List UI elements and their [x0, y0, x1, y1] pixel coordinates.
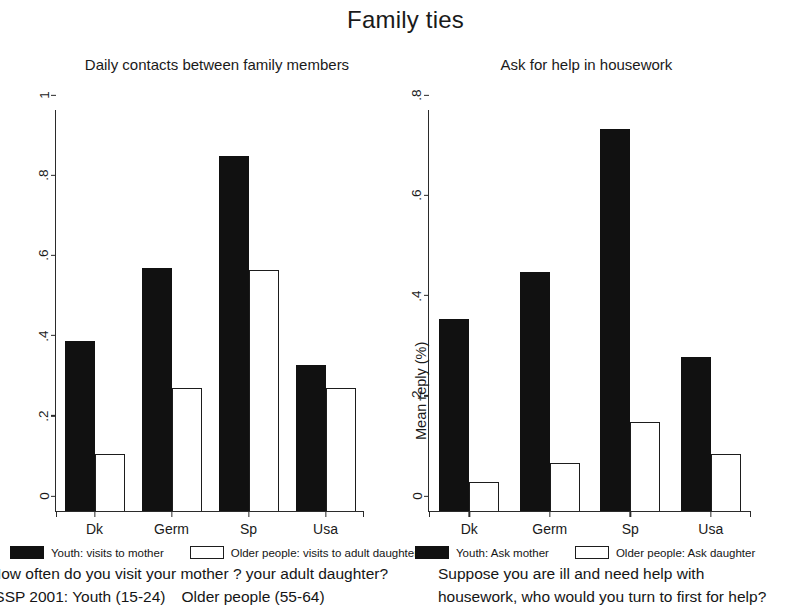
- bar-group-sp: Sp: [210, 110, 287, 511]
- y-tick-label: .6: [409, 190, 424, 201]
- y-tick-left-4: .8: [38, 168, 56, 183]
- caption-right: Suppose you are ill and need help with h…: [438, 563, 766, 608]
- bar-groups-right: DkGermSpUsa: [429, 110, 751, 511]
- x-tick-label-sp: Sp: [240, 521, 257, 537]
- bar-dk-series2: [95, 454, 125, 511]
- bar-germ-series2: [172, 388, 202, 511]
- bar-sp-series1: [219, 156, 249, 511]
- x-tick-mark: [469, 511, 470, 517]
- legend-left: Youth: visits to motherOlder people: vis…: [10, 546, 416, 559]
- x-tick-label-germ: Germ: [154, 521, 189, 537]
- y-tick-right-1: .2: [411, 388, 429, 403]
- legend-swatch-dark: [415, 546, 449, 559]
- legend-label-1: Youth: Ask mother: [456, 547, 549, 559]
- legend-swatch-dark: [10, 546, 44, 559]
- x-axis-end-tick-left: [363, 511, 364, 517]
- bar-dk-series1: [65, 341, 95, 511]
- caption-left: How often do you visit your mother ? you…: [0, 563, 388, 608]
- y-tick-label: .6: [36, 250, 51, 261]
- x-axis-end-tick-right: [750, 511, 751, 517]
- bar-usa-series2: [326, 388, 356, 511]
- figure: Family ties Daily contacts between famil…: [0, 0, 811, 612]
- x-tick-mark: [549, 511, 550, 517]
- x-tick-mark: [325, 511, 326, 517]
- y-tick-label: .8: [409, 89, 424, 100]
- x-tick-mark: [630, 511, 631, 517]
- bar-germ-series1: [142, 268, 172, 511]
- y-tick-label: 1: [38, 91, 53, 99]
- bar-sp-series2: [630, 422, 660, 511]
- y-tick-left-1: .2: [38, 408, 56, 423]
- bar-dk-series2: [469, 482, 499, 511]
- y-tick-left-3: .6: [38, 248, 56, 263]
- caption-right-line2: housework, who would you turn to first f…: [438, 586, 766, 608]
- y-tick-label: .2: [409, 390, 424, 401]
- caption-right-line1: Suppose you are ill and need help with: [438, 565, 704, 582]
- x-tick-label-usa: Usa: [313, 521, 338, 537]
- x-tick-label-dk: Dk: [461, 521, 478, 537]
- bar-group-germ: Germ: [510, 110, 591, 511]
- y-tick-left-5: 1: [41, 88, 56, 103]
- figure-title: Family ties: [0, 6, 811, 34]
- y-tick-label: .4: [409, 290, 424, 301]
- bar-sp-series1: [600, 129, 630, 511]
- x-axis-start-tick-left: [56, 511, 57, 517]
- plot-area-left: Mean reply (%) 0.2.4.6.81 DkGermSpUsa Yo…: [55, 110, 364, 512]
- y-tick-label: 0: [411, 492, 426, 500]
- plot-area-right: Mean reply (%) 0.2.4.6.8 DkGermSpUsa You…: [428, 110, 751, 512]
- y-tick-right-3: .6: [411, 188, 429, 203]
- bar-group-sp: Sp: [590, 110, 671, 511]
- caption-left-line2: ISSP 2001: Youth (15-24)Older people (55…: [0, 586, 388, 608]
- legend-swatch-light: [575, 546, 609, 559]
- x-tick-mark: [248, 511, 249, 517]
- y-tick-label: .8: [36, 170, 51, 181]
- caption-left-line1: How often do you visit your mother ? you…: [0, 565, 388, 582]
- bar-usa-series2: [711, 454, 741, 511]
- caption-left-source: ISSP 2001: Youth (15-24): [0, 588, 166, 605]
- y-tick-label: .4: [36, 330, 51, 341]
- x-tick-label-sp: Sp: [622, 521, 639, 537]
- y-tick-label: .2: [36, 410, 51, 421]
- y-tick-label: 0: [38, 492, 53, 500]
- bar-group-dk: Dk: [429, 110, 510, 511]
- x-tick-label-usa: Usa: [698, 521, 723, 537]
- x-axis-start-tick-right: [429, 511, 430, 517]
- bar-groups-left: DkGermSpUsa: [56, 110, 364, 511]
- x-tick-mark: [94, 511, 95, 517]
- y-tick-left-0: 0: [41, 489, 56, 504]
- panel-daily-contacts: Daily contacts between family members Me…: [0, 56, 406, 548]
- legend-label-2: Older people: Ask daughter: [616, 547, 755, 559]
- x-tick-mark: [171, 511, 172, 517]
- bar-dk-series1: [439, 319, 469, 511]
- y-tick-right-0: 0: [414, 489, 429, 504]
- legend-swatch-light: [190, 546, 224, 559]
- caption-left-older: Older people (55-64): [182, 588, 325, 605]
- legend-label-1: Youth: visits to mother: [51, 547, 164, 559]
- x-tick-label-germ: Germ: [532, 521, 567, 537]
- x-tick-mark: [710, 511, 711, 517]
- bar-group-dk: Dk: [56, 110, 133, 511]
- panel-title-left: Daily contacts between family members: [0, 56, 406, 73]
- bar-group-usa: Usa: [671, 110, 752, 511]
- y-tick-left-2: .4: [38, 328, 56, 343]
- y-tick-right-4: .8: [411, 88, 429, 103]
- panel-ask-for-help: Ask for help in housework Mean reply (%)…: [406, 56, 811, 548]
- legend-right: Youth: Ask motherOlder people: Ask daugh…: [415, 546, 809, 559]
- bar-germ-series2: [550, 463, 580, 511]
- bar-group-germ: Germ: [133, 110, 210, 511]
- bar-usa-series1: [681, 357, 711, 511]
- x-tick-label-dk: Dk: [86, 521, 103, 537]
- legend-label-2: Older people: visits to adult daughter: [231, 547, 418, 559]
- bar-usa-series1: [296, 365, 326, 511]
- bar-group-usa: Usa: [287, 110, 364, 511]
- y-tick-right-2: .4: [411, 288, 429, 303]
- bar-germ-series1: [520, 272, 550, 511]
- bar-sp-series2: [249, 270, 279, 511]
- panel-title-right: Ask for help in housework: [406, 56, 811, 73]
